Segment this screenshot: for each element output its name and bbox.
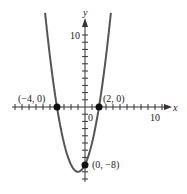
point-0-neg8 bbox=[82, 162, 89, 169]
point-label-2-0: (2, 0) bbox=[103, 93, 125, 105]
point-2-0 bbox=[96, 104, 103, 111]
x-axis-label: x bbox=[172, 102, 178, 113]
point-label-0-neg8: (0, −8) bbox=[92, 159, 119, 171]
x-tick-label-10: 10 bbox=[150, 112, 160, 123]
origin-label: 0 bbox=[88, 112, 93, 123]
x-axis-arrow-icon bbox=[164, 104, 172, 110]
y-axis-label: y bbox=[82, 7, 88, 18]
point-neg4-0 bbox=[54, 104, 61, 111]
y-axis-arrow-icon bbox=[82, 18, 88, 27]
parabola-chart: y x 10 10 0 (−4, 0) (2, 0) (0, −8) bbox=[0, 0, 187, 194]
y-tick-label-10: 10 bbox=[70, 30, 80, 41]
point-label-neg4-0: (−4, 0) bbox=[18, 93, 45, 105]
